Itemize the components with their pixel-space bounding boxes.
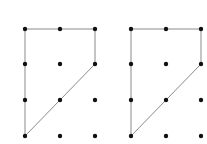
grid-dot	[199, 27, 203, 31]
grid-dot	[93, 134, 97, 138]
grid-dot	[129, 134, 133, 138]
grid-dot	[23, 134, 27, 138]
grid-dot	[58, 98, 62, 102]
right-figure	[129, 27, 203, 138]
grid-dot	[58, 27, 62, 31]
grid-dot	[93, 27, 97, 31]
grid-dot	[129, 62, 133, 66]
grid-dot	[164, 62, 168, 66]
grid-dot	[23, 27, 27, 31]
grid-dot	[58, 62, 62, 66]
grid-dot	[93, 98, 97, 102]
grid-dot	[164, 27, 168, 31]
grid-dot	[93, 62, 97, 66]
grid-dot	[58, 134, 62, 138]
left-figure	[23, 27, 97, 138]
dot-grid-diagram	[0, 0, 207, 144]
polygon-outline	[25, 29, 95, 136]
grid-dot	[199, 134, 203, 138]
grid-dot	[23, 98, 27, 102]
grid-dot	[164, 98, 168, 102]
grid-dot	[129, 27, 133, 31]
figures-svg	[0, 0, 207, 144]
grid-dot	[129, 98, 133, 102]
grid-dot	[199, 62, 203, 66]
grid-dot	[199, 98, 203, 102]
grid-dot	[23, 62, 27, 66]
polygon-outline	[131, 29, 201, 136]
grid-dot	[164, 134, 168, 138]
